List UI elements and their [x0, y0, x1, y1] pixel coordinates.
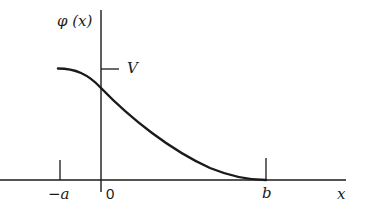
- tick-label-b: b: [262, 186, 272, 201]
- diagram-canvas: [0, 0, 365, 215]
- level-label-v: V: [127, 61, 138, 76]
- phi-curve: [58, 69, 266, 181]
- tick-label-zero: 0: [106, 186, 114, 201]
- tick-label-neg-a: −a: [48, 187, 70, 202]
- y-axis-label: φ (x): [57, 14, 92, 29]
- x-axis-label: x: [337, 187, 345, 202]
